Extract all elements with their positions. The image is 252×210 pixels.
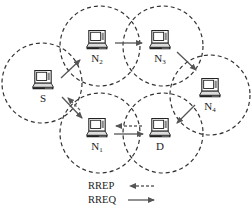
node-s: S	[33, 70, 54, 104]
node-d: D	[150, 118, 171, 152]
nodes: SN2N3N4N1D	[33, 30, 221, 154]
rreq-arrow-n3-n4	[177, 52, 196, 70]
rreq-arrow-n4-d	[177, 105, 195, 123]
node-n4: N4	[200, 78, 221, 114]
arrows	[61, 43, 196, 134]
rreq-arrow-s-n1	[62, 97, 82, 118]
node-n2: N2	[87, 30, 108, 66]
laptop-icon	[87, 30, 108, 49]
laptop-icon	[33, 70, 54, 89]
network-diagram: SN2N3N4N1D RREP RREQ	[0, 0, 252, 210]
legend-rrep-label: RREP	[88, 180, 114, 191]
laptop-icon	[150, 118, 171, 137]
node-label: N2	[91, 52, 103, 66]
node-n1: N1	[87, 118, 108, 154]
node-label: N3	[154, 52, 166, 66]
laptop-icon	[150, 30, 171, 49]
node-n3: N3	[150, 30, 171, 66]
node-label: N1	[91, 140, 103, 154]
node-label: D	[156, 140, 164, 152]
laptop-icon	[200, 78, 221, 97]
node-label: S	[40, 92, 46, 104]
legend-rreq-label: RREQ	[88, 194, 116, 205]
laptop-icon	[87, 118, 108, 137]
legend: RREP RREQ	[88, 180, 154, 205]
node-label: N4	[204, 100, 216, 114]
